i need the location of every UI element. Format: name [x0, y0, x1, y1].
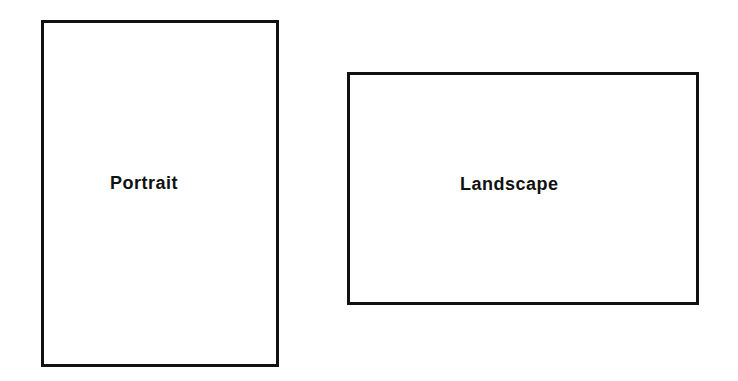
portrait-label: Portrait: [110, 173, 178, 194]
landscape-label: Landscape: [460, 174, 559, 195]
landscape-rectangle: Landscape: [347, 72, 699, 305]
portrait-rectangle: Portrait: [41, 20, 279, 367]
